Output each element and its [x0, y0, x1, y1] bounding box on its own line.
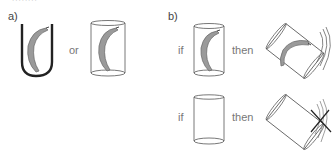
banana-icon — [280, 40, 309, 66]
tilted-banana-cylinder-figure — [265, 18, 333, 84]
cross-out-icon — [311, 110, 331, 132]
row2-if-label: if — [178, 111, 184, 123]
panel-b-label: b) — [168, 10, 178, 22]
banana-icon — [201, 31, 219, 71]
banana-u-tube-figure — [18, 22, 58, 78]
row1-then-label: then — [232, 44, 253, 56]
or-connector: or — [69, 44, 79, 56]
row1-if-label: if — [178, 44, 184, 56]
empty-cylinder-condition-figure — [192, 94, 226, 146]
banana-icon — [28, 28, 48, 72]
cropped-header-text: ........ — [12, 0, 38, 3]
tilted-empty-cylinder-figure — [265, 88, 333, 154]
panel-a-label: a) — [8, 10, 18, 22]
banana-cylinder-figure — [88, 19, 128, 79]
row2-then-label: then — [232, 111, 253, 123]
banana-icon — [99, 28, 118, 71]
banana-cylinder-condition-figure — [192, 22, 226, 78]
